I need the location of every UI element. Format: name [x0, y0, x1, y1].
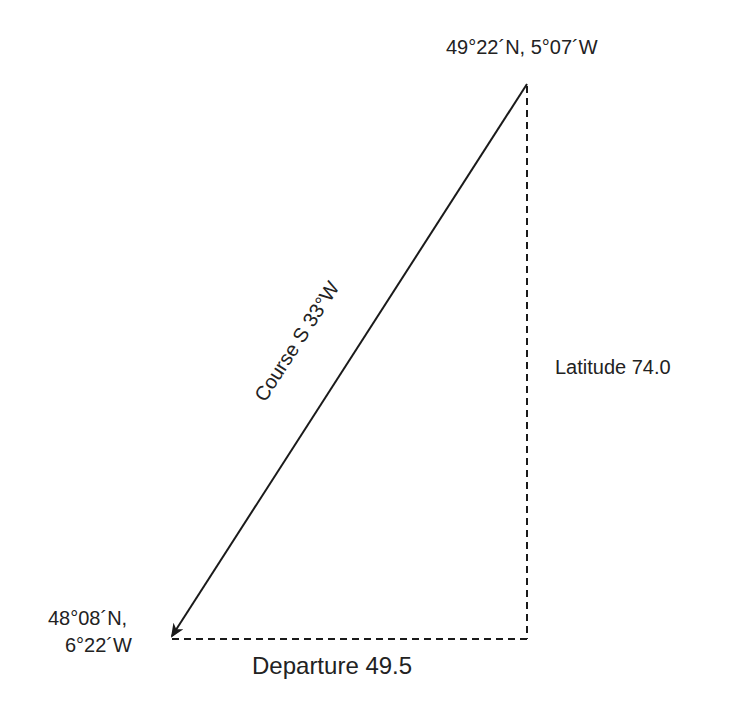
end-point-label-line1: 48°08´N,	[48, 607, 127, 630]
departure-label: Departure 49.5	[252, 652, 412, 680]
course-line	[172, 84, 527, 636]
start-point-label: 49°22´N, 5°07´W	[446, 36, 598, 59]
end-point-label-line2: 6°22´W	[65, 634, 132, 657]
latitude-label: Latitude 74.0	[555, 356, 671, 379]
